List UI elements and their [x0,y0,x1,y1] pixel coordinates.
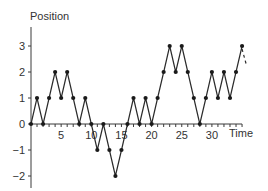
data-point [210,70,214,74]
data-point [95,148,99,152]
data-point [137,122,141,126]
data-point [234,70,238,74]
data-point [125,122,129,126]
data-point [168,44,172,48]
dashed-continuation [242,49,247,66]
x-tick-label: 30 [206,129,218,141]
data-point [65,70,69,74]
y-tick-label: −1 [12,144,25,156]
data-point [41,122,45,126]
y-axis-label: Position [30,10,69,22]
data-point [180,44,184,48]
data-point [156,96,160,100]
x-tick-label: 5 [58,129,64,141]
data-point [101,122,105,126]
x-tick-label: 25 [176,129,188,141]
data-point [192,96,196,100]
data-point [150,122,154,126]
random-walk-chart: −2−10123 51015202530 Position Time [0,0,268,191]
x-axis-label: Time [229,127,253,139]
data-point [228,96,232,100]
data-point [35,96,39,100]
y-tick-label: 0 [19,118,25,130]
data-point [47,96,51,100]
data-point [174,70,178,74]
y-tick-label: −2 [12,170,25,182]
data-point [113,174,117,178]
data-point [143,96,147,100]
data-point [131,96,135,100]
series-line [31,46,242,176]
data-point [71,96,75,100]
data-point [59,96,63,100]
x-axis: 51015202530 [31,124,242,141]
data-point [198,122,202,126]
y-tick-label: 1 [19,92,25,104]
data-point [240,44,244,48]
data-point [222,70,226,74]
x-tick-label: 10 [85,129,97,141]
data-point [83,96,87,100]
data-point [53,70,57,74]
data-point [216,96,220,100]
data-point [204,96,208,100]
data-point [107,148,111,152]
y-axis: −2−10123 [12,27,31,188]
data-point [29,122,33,126]
data-point [119,148,123,152]
y-tick-label: 3 [19,40,25,52]
x-tick-label: 20 [145,129,157,141]
data-point [186,70,190,74]
y-tick-label: 2 [19,66,25,78]
data-point [77,122,81,126]
data-point [89,122,93,126]
data-series [29,44,247,178]
data-point [162,70,166,74]
